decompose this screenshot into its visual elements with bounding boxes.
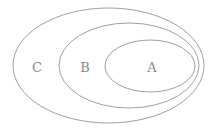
diagram-svg: C B A — [0, 0, 216, 135]
nested-set-diagram: C B A — [0, 0, 216, 135]
set-b-label: B — [80, 60, 90, 75]
set-c-label: C — [32, 60, 42, 75]
set-a-label: A — [146, 60, 157, 75]
